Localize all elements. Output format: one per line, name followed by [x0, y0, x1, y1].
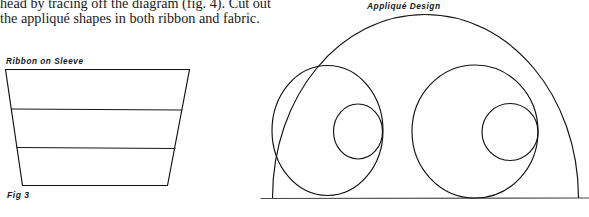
applique-dome-outline	[273, 15, 579, 199]
ribbon-divider-line-1	[12, 109, 183, 110]
applique-large-circle-left	[272, 66, 383, 196]
ribbon-trapezoid-group	[6, 70, 190, 186]
applique-design-group	[261, 15, 589, 199]
ribbon-trapezoid-outline	[6, 70, 190, 186]
instruction-line-2: the appliqué shapes in both ribbon and f…	[0, 11, 300, 26]
ribbon-divider-line-2	[17, 148, 176, 149]
applique-baseline	[261, 198, 589, 199]
scanned-page: head by tracing off the diagram (fig. 4)…	[0, 0, 589, 217]
applique-small-circle-right	[482, 104, 538, 161]
ribbon-on-sleeve-label: Ribbon on Sleeve	[6, 57, 84, 66]
applique-design-label: Appliqué Design	[367, 1, 441, 11]
fig-3-caption: Fig 3	[7, 190, 30, 200]
applique-small-circle-left	[334, 104, 383, 159]
instruction-paragraph: head by tracing off the diagram (fig. 4)…	[0, 0, 300, 26]
figure-line-art	[0, 0, 589, 217]
applique-large-circle-right	[412, 65, 538, 198]
